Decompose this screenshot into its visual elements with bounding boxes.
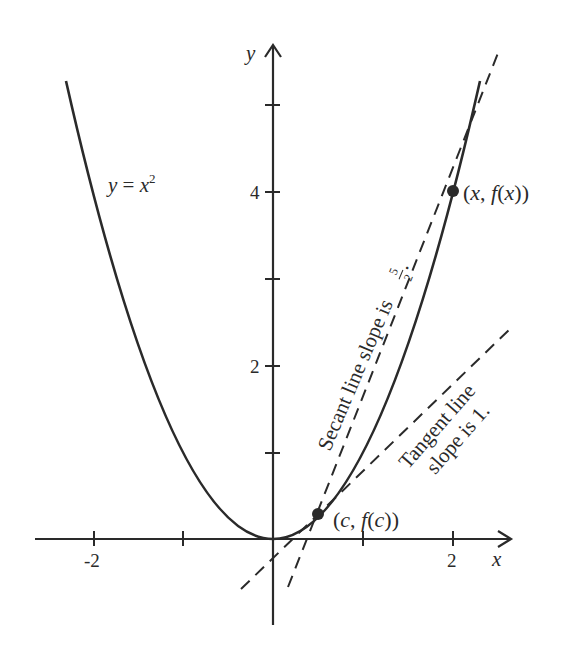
x-axis-label: x <box>491 547 502 571</box>
tangent-line <box>241 327 512 589</box>
secant-label-text: Secant line slope is <box>313 296 398 454</box>
function-label: y = x2 <box>106 171 156 197</box>
point-x <box>447 185 459 197</box>
tangent-label: Tangent line slope is 1. <box>394 379 499 489</box>
point-x-label: (x, f(x)) <box>463 180 529 205</box>
x-tick-label-neg2: -2 <box>84 550 100 571</box>
point-c-label: (c, f(c)) <box>333 507 399 532</box>
x-tick-label-2: 2 <box>447 550 457 571</box>
secant-tangent-diagram: -2 2 x 4 2 y (c, f(c)) <box>0 0 581 655</box>
secant-slope-denominator: 2 <box>401 272 416 283</box>
y-tick-label-4: 4 <box>250 182 260 203</box>
y-axis-label: y <box>244 41 256 65</box>
y-tick-label-2: 2 <box>250 356 260 377</box>
point-c <box>312 508 324 520</box>
